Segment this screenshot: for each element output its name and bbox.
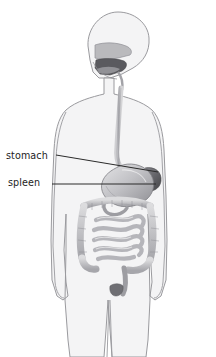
label-stomach: stomach bbox=[6, 150, 48, 161]
label-spleen: spleen bbox=[8, 177, 40, 188]
